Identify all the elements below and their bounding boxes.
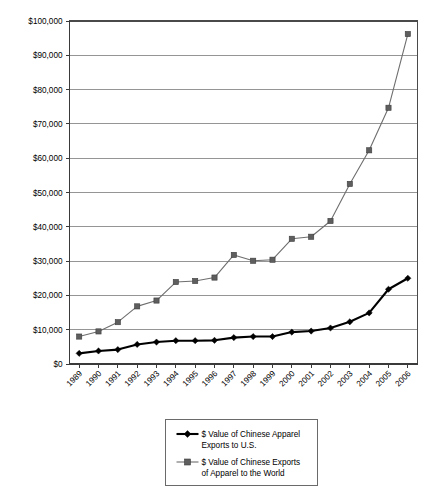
world-series-data-point: [309, 234, 314, 239]
series-world-exports: [77, 31, 411, 339]
chart-container: $100,000$90,000$80,000$70,000$60,000$50,…: [0, 0, 431, 503]
y-axis-tick-label: $60,000: [33, 154, 63, 163]
x-axis-tick-label: 1989: [65, 369, 85, 389]
square-marker-icon: [185, 459, 191, 465]
world-series-data-point: [193, 278, 198, 283]
us-series-data-point: [153, 339, 159, 345]
y-axis-tick-label: $30,000: [33, 257, 63, 266]
us-series-data-point: [347, 319, 353, 325]
world-series-data-point: [386, 105, 391, 110]
x-axis-tick-label: 1993: [142, 369, 162, 389]
x-axis-tick-label: 1990: [84, 369, 104, 389]
x-axis-tick-label: 2004: [355, 369, 375, 389]
world-series-data-point: [289, 236, 294, 241]
us-series-data-point: [327, 325, 333, 331]
gridlines: [70, 21, 418, 330]
x-axis-tick-label: 2005: [374, 369, 394, 389]
x-axis-labels: 1989199019911992199319941995199619971998…: [65, 364, 413, 388]
x-axis-tick-label: 1999: [258, 369, 278, 389]
world-series-line: [79, 34, 408, 337]
us-series-data-point: [115, 346, 121, 352]
x-axis-tick-label: 1992: [123, 369, 143, 389]
us-series-data-point: [250, 333, 256, 339]
us-series-data-point: [231, 334, 237, 340]
line-chart: $100,000$90,000$80,000$70,000$60,000$50,…: [0, 0, 431, 503]
us-series-data-point: [192, 338, 198, 344]
world-series-data-point: [367, 148, 372, 153]
x-axis-tick-label: 2006: [394, 369, 414, 389]
x-axis-tick-label: 1998: [239, 369, 259, 389]
y-axis-tick-label: $50,000: [33, 189, 63, 198]
world-series-data-point: [96, 329, 101, 334]
us-series-data-point: [308, 328, 314, 334]
legend-label-us-line1: $ Value of Chinese Apparel: [202, 430, 301, 439]
y-axis-tick-label: $10,000: [33, 326, 63, 335]
x-axis-tick-label: 1997: [220, 369, 240, 389]
world-series-data-point: [405, 31, 410, 36]
us-series-data-point: [95, 348, 101, 354]
x-axis-tick-label: 2002: [316, 369, 336, 389]
x-axis-tick-label: 2001: [297, 369, 317, 389]
world-series-data-point: [251, 258, 256, 263]
world-series-data-point: [347, 181, 352, 186]
legend-label-world-line1: $ Value of Chinese Exports: [202, 458, 301, 467]
y-axis-tick-label: $70,000: [33, 120, 63, 129]
world-series-data-point: [77, 334, 82, 339]
x-axis-tick-label: 1994: [162, 369, 182, 389]
world-series-data-point: [115, 320, 120, 325]
x-axis-tick-label: 2000: [278, 369, 298, 389]
y-axis-tick-label: $20,000: [33, 291, 63, 300]
us-series-data-point: [76, 350, 82, 356]
us-series-data-point: [173, 338, 179, 344]
us-series-line: [79, 278, 408, 353]
x-axis-tick-label: 1996: [200, 369, 220, 389]
us-series-data-point: [269, 333, 275, 339]
y-axis-labels: $100,000$90,000$80,000$70,000$60,000$50,…: [28, 17, 69, 369]
x-axis-tick-label: 2003: [336, 369, 356, 389]
world-series-data-point: [270, 257, 275, 262]
y-axis-tick-label: $100,000: [28, 17, 63, 26]
y-axis-tick-label: $90,000: [33, 51, 63, 60]
y-axis-tick-label: $80,000: [33, 86, 63, 95]
world-series-data-point: [173, 279, 178, 284]
y-axis-tick-label: $40,000: [33, 223, 63, 232]
legend-label-world-line2: of Apparel to the World: [202, 469, 286, 478]
world-series-data-point: [231, 252, 236, 257]
x-axis-tick-label: 1995: [181, 369, 201, 389]
us-series-data-point: [134, 341, 140, 347]
y-axis-tick-label: $0: [53, 360, 63, 369]
world-series-data-point: [328, 218, 333, 223]
world-series-data-point: [135, 304, 140, 309]
us-series-data-point: [211, 337, 217, 343]
legend-label-us-line2: Exports to U.S.: [202, 441, 257, 450]
world-series-data-point: [212, 275, 217, 280]
x-axis-tick-label: 1991: [104, 369, 124, 389]
world-series-data-point: [154, 298, 159, 303]
chart-legend: $ Value of Chinese ApparelExports to U.S…: [166, 420, 318, 486]
